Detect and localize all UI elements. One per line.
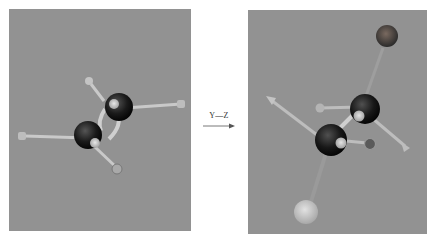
left-molecule-photo bbox=[9, 9, 191, 231]
hydrogen-cap bbox=[401, 142, 410, 152]
right-arrow-icon bbox=[203, 122, 236, 130]
hydrogen-cap bbox=[365, 139, 376, 150]
molecule-model-eclipsed bbox=[9, 9, 191, 231]
substituent-atom-dark bbox=[376, 25, 398, 47]
rotation-axis-label: Y—Z bbox=[203, 111, 235, 120]
hydrogen-cap bbox=[112, 164, 122, 174]
hydrogen-cap bbox=[85, 77, 93, 85]
molecule-model-rotated bbox=[248, 10, 427, 234]
carbon-atom bbox=[350, 94, 380, 124]
hydrogen-cap bbox=[18, 132, 26, 140]
carbon-atom bbox=[105, 93, 133, 121]
hydrogen-cap bbox=[316, 104, 325, 113]
hydrogen-cap bbox=[177, 100, 185, 108]
right-molecule-photo bbox=[248, 10, 427, 234]
substituent-atom-light bbox=[294, 200, 318, 224]
